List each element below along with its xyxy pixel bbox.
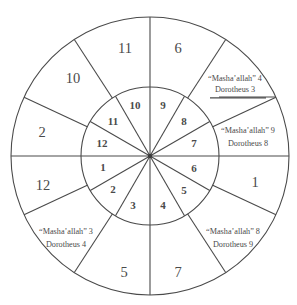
inner-sector-label-12: 12 (97, 137, 109, 149)
outer-sector-label-12: 12 (36, 177, 51, 193)
attribution-lower-left-line1: “Masha’allah” 3 (39, 227, 93, 236)
inner-sector-label-1: 1 (100, 161, 106, 173)
outer-sector-label-2: 2 (38, 124, 45, 140)
center-point (148, 154, 152, 158)
inner-sector-label-5: 5 (181, 184, 187, 196)
inner-sector-label-4: 4 (160, 199, 166, 211)
twelve-house-wheel-diagram: 1 2 3 4 5 6 7 8 9 10 11 12 1 7 5 12 2 10… (0, 0, 297, 305)
outer-sector-label-6: 6 (174, 40, 181, 56)
outer-sector-label-10: 10 (66, 70, 81, 86)
inner-sector-label-8: 8 (181, 115, 187, 127)
inner-sector-label-2: 2 (110, 183, 116, 195)
houses-chart-container: 1 2 3 4 5 6 7 8 9 10 11 12 1 7 5 12 2 10… (0, 0, 297, 305)
inner-sector-label-11: 11 (108, 115, 118, 127)
outer-sector-label-1: 1 (251, 174, 258, 190)
outer-sector-label-7: 7 (174, 264, 181, 280)
attribution-lower-left-line2: Dorotheus 4 (46, 240, 86, 249)
inner-sector-label-6: 6 (191, 162, 197, 174)
outer-sector-label-11: 11 (118, 40, 132, 56)
attribution-upper-right-line2: Dorotheus 3 (215, 85, 255, 94)
attribution-right-line2: Dorotheus 8 (228, 139, 268, 148)
inner-sector-label-10: 10 (130, 99, 142, 111)
attribution-right-line1: “Masha’allah” 9 (221, 126, 275, 135)
attribution-upper-right-line1: “Masha’allah” 4 (208, 74, 262, 83)
inner-sector-label-3: 3 (130, 199, 136, 211)
attribution-lower-right-line2: Dorotheus 9 (213, 240, 253, 249)
inner-sector-label-9: 9 (160, 99, 166, 111)
outer-sector-label-5: 5 (120, 264, 127, 280)
inner-sector-label-7: 7 (191, 137, 197, 149)
attribution-lower-right-line1: “Masha’allah” 8 (206, 227, 260, 236)
